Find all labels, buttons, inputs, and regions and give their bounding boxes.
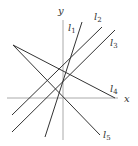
line-label-l2: l2	[94, 11, 102, 24]
line-label-l4: l4	[110, 83, 118, 96]
x-axis-label: x	[124, 93, 130, 104]
line-label-l5: l5	[103, 129, 111, 142]
line-l4	[13, 45, 115, 98]
line-label-l3: l3	[110, 37, 118, 50]
line-l2	[12, 27, 102, 115]
line-label-l1: l1	[68, 22, 76, 35]
lines-group: l1l2l3l4l5	[12, 11, 118, 142]
line-l5	[13, 45, 100, 135]
lines-diagram: x y l1l2l3l4l5	[0, 0, 138, 146]
y-axis-label: y	[57, 5, 64, 16]
